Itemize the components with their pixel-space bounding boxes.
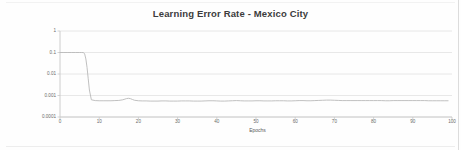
x-tick-label: 10 bbox=[89, 119, 109, 124]
plot-area bbox=[0, 0, 461, 150]
x-tick-label: 40 bbox=[207, 119, 227, 124]
x-tick-label: 100 bbox=[442, 119, 461, 124]
x-tick-label: 20 bbox=[128, 119, 148, 124]
x-tick-label: 90 bbox=[403, 119, 423, 124]
x-tick-label: 80 bbox=[364, 119, 384, 124]
x-tick-label: 70 bbox=[324, 119, 344, 124]
x-tick-label: 0 bbox=[50, 119, 70, 124]
x-tick-label: 50 bbox=[246, 119, 266, 124]
y-tick-label: 0.001 bbox=[26, 93, 56, 98]
y-tick-label: 0.01 bbox=[26, 71, 56, 76]
x-tick-label: 30 bbox=[168, 119, 188, 124]
chart-figure: Learning Error Rate - Mexico City Error … bbox=[0, 0, 461, 150]
data-series-group bbox=[60, 53, 448, 102]
x-tick-label: 60 bbox=[285, 119, 305, 124]
gridlines-group bbox=[60, 31, 452, 117]
y-tick-label: 0.1 bbox=[26, 50, 56, 55]
series-line-0 bbox=[60, 53, 448, 102]
y-tick-label: 1 bbox=[26, 28, 56, 33]
tick-marks-group bbox=[58, 31, 453, 120]
